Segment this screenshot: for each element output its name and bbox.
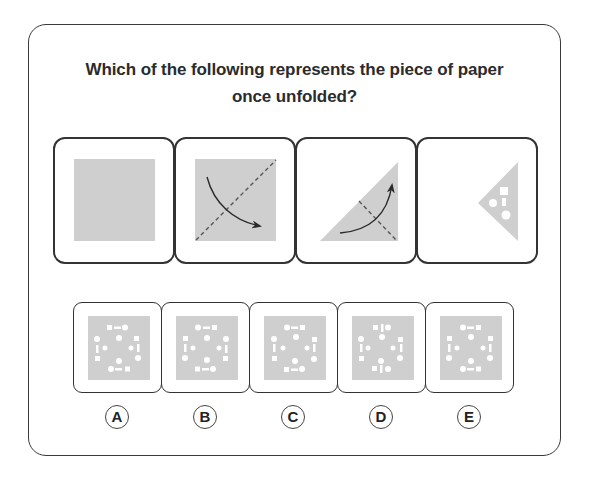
answer-card-e[interactable] [425,302,514,393]
answer-card-d[interactable] [337,302,426,393]
fold-diagonal-icon [176,139,298,266]
answer-option-d[interactable]: D [369,405,393,429]
answer-option-e[interactable]: E [457,405,481,429]
step-card-3 [295,137,417,264]
step-card-4 [416,137,538,264]
fold-triangle-icon [297,139,419,266]
answer-option-c[interactable]: C [281,405,305,429]
answer-a-pattern-icon [74,303,163,394]
question-line-1: Which of the following represents the pi… [28,56,561,83]
hole-circle [489,199,497,207]
answer-card-c[interactable] [249,302,338,393]
step-card-1 [53,137,175,264]
hole-rect [502,198,506,206]
answer-e-pattern-icon [426,303,515,394]
hole-circle [502,211,511,220]
answer-card-a[interactable] [73,302,162,393]
answer-option-b[interactable]: B [193,405,217,429]
question-line-2: once unfolded? [28,83,561,110]
paper-square-icon [55,139,177,266]
answer-d-pattern-icon [338,303,427,394]
answer-c-pattern-icon [250,303,339,394]
hole-square [500,187,508,195]
step-card-2 [174,137,296,264]
answer-option-a[interactable]: A [105,405,129,429]
punched-triangle-icon [418,139,540,266]
answer-card-b[interactable] [161,302,250,393]
answer-b-pattern-icon [162,303,251,394]
question-text: Which of the following represents the pi… [28,56,561,110]
